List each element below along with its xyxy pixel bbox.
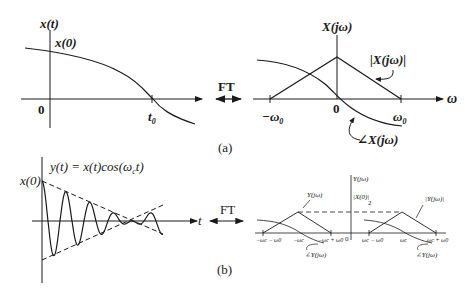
x0-label-b: x(0) xyxy=(19,173,41,188)
caption-b: (b) xyxy=(217,262,232,277)
mag-right-pointer xyxy=(416,205,423,218)
X-jw-label: X(jω) xyxy=(321,19,352,34)
magnitude-label-right: |Y(jω)| xyxy=(425,195,444,203)
t0-label: t0 xyxy=(148,109,156,126)
phase-left-pointer xyxy=(307,244,318,250)
phase-right-pointer xyxy=(417,244,428,250)
equation-label: y(t) = x(t)cos(ωct) xyxy=(48,159,144,176)
envelope-lower xyxy=(42,205,163,260)
magnitude-left xyxy=(263,212,331,233)
panel-a-freq-plot: X(jω) ω 0 −ω0 ω0 |X(jω)| ∠X(jω) xyxy=(253,19,457,147)
tick-label-5: ωc xyxy=(400,237,407,243)
tick-label-3: −ωc + ω0 xyxy=(318,237,343,243)
tick-label-6: ωc + ω0 xyxy=(427,237,448,243)
t-axis-label-b: t xyxy=(198,213,202,228)
ft-arrow-b: FT xyxy=(210,202,243,221)
mag-left-pointer xyxy=(303,200,310,208)
envelope-upper xyxy=(42,181,163,234)
caption-a: (a) xyxy=(218,140,232,155)
origin-label-freq: 0 xyxy=(333,101,340,116)
panel-b-freq-plot: Y(jω) |X(0)| 2 0 −ωc − ω0 −ωc −ωc + ω0 ω… xyxy=(255,175,448,259)
omega0-label: ω0 xyxy=(393,109,406,126)
Y-jw-label: Y(jω) xyxy=(353,175,369,183)
peak-label: |X(0)| xyxy=(353,193,369,201)
fourier-modulation-figure: x(t) x(0) 0 t0 FT X(jω) ω 0 −ω0 ω0 |X(jω… xyxy=(0,0,465,294)
magnitude-label: |X(jω)| xyxy=(370,52,406,67)
phase-label-right: ∠Y(jω) xyxy=(416,251,438,259)
omega-axis-label: ω xyxy=(447,91,457,106)
origin-label-b: 0 xyxy=(345,235,349,243)
panel-a-time-plot: x(t) x(0) 0 t0 xyxy=(21,16,202,128)
modulated-waveform xyxy=(42,181,163,256)
ft-arrow-a: FT xyxy=(216,79,241,99)
tick-label-4: ωc − ω0 xyxy=(362,237,383,243)
magnitude-right xyxy=(369,212,436,233)
origin-label: 0 xyxy=(38,102,45,117)
magnitude-label-left: Y(jω) xyxy=(307,191,323,199)
peak-divisor: 2 xyxy=(368,199,372,207)
phase-label-left: ∠Y(jω) xyxy=(305,251,327,259)
panel-b-time-plot: y(t) = x(t)cos(ωct) x(0) t xyxy=(19,157,202,283)
ft-label-b: FT xyxy=(220,202,235,217)
tick-label-2: −ωc xyxy=(293,237,304,243)
neg-omega0-label: −ω0 xyxy=(262,109,283,126)
x-t-label: x(t) xyxy=(39,16,59,31)
x0-label: x(0) xyxy=(54,35,77,50)
ft-label-a: FT xyxy=(218,79,235,94)
magnitude-pointer xyxy=(376,70,393,79)
tick-label-1: −ωc − ω0 xyxy=(256,237,281,243)
phase-label: ∠X(jω) xyxy=(357,132,398,147)
